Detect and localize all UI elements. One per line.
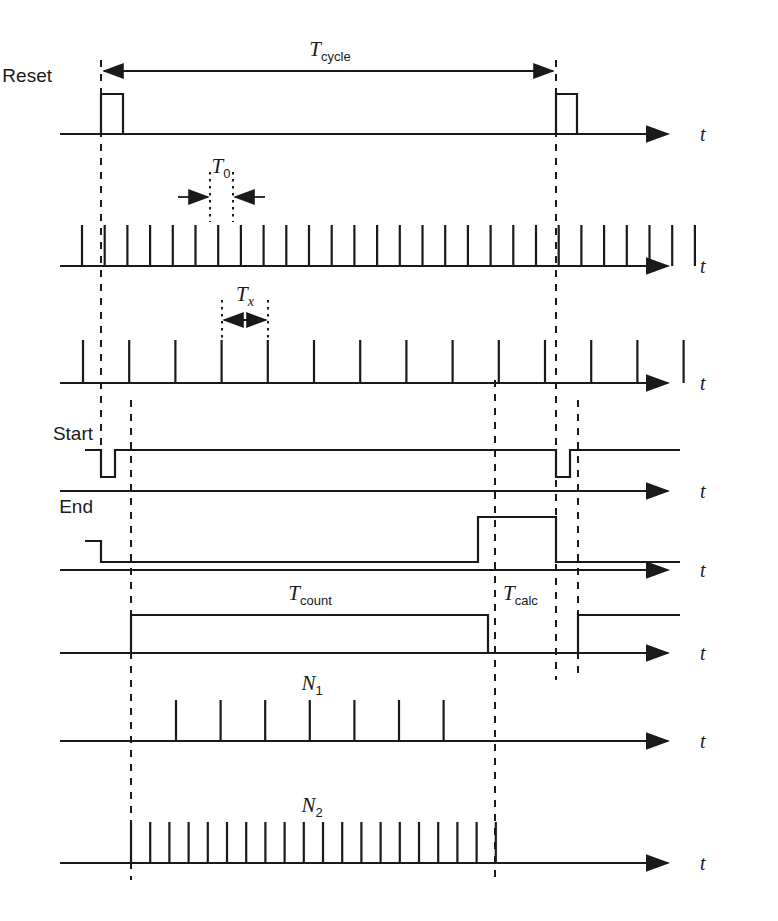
n2-axis-label: t: [700, 852, 706, 874]
t-calc-label: Tcalc: [503, 581, 538, 608]
trace-start: Start t: [53, 423, 706, 502]
start-axis-label: t: [700, 480, 706, 502]
t-count-sub: count: [300, 593, 332, 608]
t0-pulse-train: [82, 225, 695, 266]
n1-base: N: [300, 671, 316, 695]
n1-sub: 1: [315, 683, 322, 698]
t0-sub: 0: [223, 166, 230, 181]
end-waveform: [85, 517, 680, 562]
trace-label-start: Start: [53, 423, 94, 444]
n1-label: N1: [300, 671, 322, 698]
trace-n2: N2 t: [60, 793, 706, 874]
guide-lines: [101, 60, 578, 880]
count-waveform: [131, 615, 680, 653]
count-axis-label: t: [700, 642, 706, 664]
tx-axis-label: t: [700, 372, 706, 394]
reset-axis-label: t: [700, 123, 706, 145]
trace-label-end: End: [59, 496, 93, 517]
trace-tx-clock: Tx t: [60, 282, 706, 394]
n1-axis-label: t: [700, 730, 706, 752]
trace-t0-clock: T0 t: [60, 154, 706, 277]
trace-reset: Reset Tcycle t: [2, 37, 706, 145]
n2-pulse-train: [131, 822, 496, 863]
tx-label: Tx: [236, 282, 255, 309]
trace-n1: N1 t: [60, 671, 706, 752]
start-waveform: [85, 450, 680, 477]
t-cycle-sub: cycle: [321, 49, 351, 64]
tx-pulse-train: [83, 340, 684, 383]
n2-base: N: [300, 793, 316, 817]
t0-axis-label: t: [700, 255, 706, 277]
trace-label-reset: Reset: [2, 65, 52, 86]
reset-pulse-2: [556, 94, 577, 134]
timing-diagram-figure: Reset Tcycle t T0 t: [0, 0, 778, 921]
t-count-label: Tcount: [288, 581, 332, 608]
tx-sub: x: [247, 294, 255, 309]
reset-pulse-1: [101, 94, 123, 134]
t0-label: T0: [212, 154, 231, 181]
n2-sub: 2: [315, 805, 322, 820]
end-axis-label: t: [700, 559, 706, 581]
n2-label: N2: [300, 793, 322, 820]
n1-pulse-train: [176, 700, 444, 741]
t-calc-sub: calc: [515, 593, 539, 608]
t-cycle-label: Tcycle: [309, 37, 350, 64]
trace-count-calc: Tcount Tcalc t: [60, 581, 706, 664]
trace-end: End t: [59, 496, 706, 581]
